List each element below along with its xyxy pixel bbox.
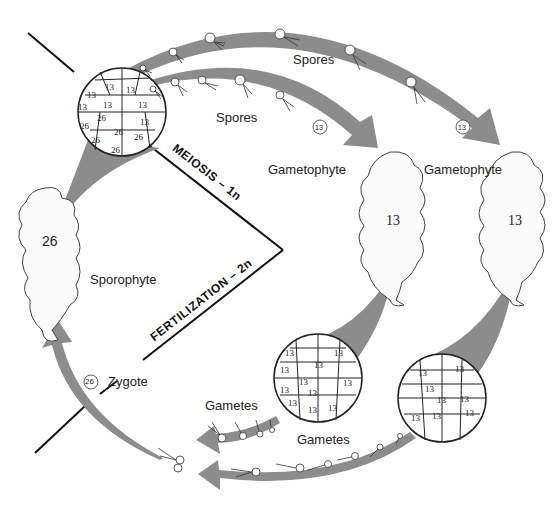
sporophyte-label: Sporophyte — [90, 272, 157, 287]
svg-text:13: 13 — [299, 377, 309, 387]
life-cycle-diagram: 131313 131313 13 262626 262626 1313 1313… — [0, 0, 552, 505]
gametophyte-1-ploidy: 13 — [386, 213, 400, 229]
gametophyte-2-label: Gametophyte — [424, 162, 502, 177]
svg-text:13: 13 — [328, 403, 338, 413]
svg-text:13: 13 — [432, 411, 442, 421]
gametes-label-2: Gametes — [297, 432, 350, 447]
gamete-glyphs — [158, 420, 403, 477]
svg-text:26: 26 — [111, 145, 121, 155]
svg-text:13: 13 — [78, 102, 88, 112]
svg-text:13: 13 — [418, 368, 428, 378]
zygote-arrow — [42, 320, 163, 460]
svg-text:13: 13 — [280, 365, 290, 375]
svg-text:13: 13 — [138, 100, 148, 110]
sporophyte-ploidy: 26 — [42, 233, 58, 249]
spore-ploidy-labels: 1313 — [315, 124, 466, 131]
svg-text:13: 13 — [334, 348, 344, 358]
svg-text:13: 13 — [288, 398, 298, 408]
svg-text:13: 13 — [460, 394, 470, 404]
svg-text:13: 13 — [465, 408, 475, 418]
svg-text:13: 13 — [87, 90, 97, 100]
svg-text:13: 13 — [425, 384, 435, 394]
svg-text:13: 13 — [315, 124, 323, 131]
zygote-label: Zygote — [108, 374, 148, 389]
svg-text:13: 13 — [105, 82, 115, 92]
svg-text:13: 13 — [458, 124, 466, 131]
svg-text:13: 13 — [308, 388, 318, 398]
svg-text:13: 13 — [126, 85, 136, 95]
svg-text:13: 13 — [140, 117, 150, 127]
gametes-label-1: Gametes — [205, 398, 258, 413]
svg-text:13: 13 — [103, 100, 113, 110]
svg-text:13: 13 — [280, 385, 290, 395]
gamete-arrows — [196, 416, 416, 490]
svg-text:26: 26 — [91, 135, 101, 145]
svg-text:13: 13 — [411, 413, 421, 423]
gametophyte-1-label: Gametophyte — [268, 162, 346, 177]
svg-text:13: 13 — [285, 348, 295, 358]
gametophyte-2-ploidy: 13 — [508, 213, 522, 229]
zygote-ploidy: 26 — [85, 377, 94, 386]
spores-label-inner: Spores — [216, 110, 257, 125]
spores-label-outer: Spores — [293, 52, 334, 67]
svg-text:13: 13 — [314, 360, 324, 370]
svg-text:13: 13 — [455, 364, 465, 374]
svg-text:26: 26 — [114, 127, 124, 137]
svg-text:26: 26 — [97, 113, 107, 123]
svg-text:13: 13 — [308, 405, 318, 415]
svg-text:26: 26 — [134, 132, 144, 142]
sporophyte-plant — [19, 187, 80, 341]
spore-arrows — [125, 32, 500, 148]
svg-text:13: 13 — [437, 395, 447, 405]
svg-text:26: 26 — [80, 121, 90, 131]
diagram-graphics: 131313 131313 13 262626 262626 1313 1313… — [0, 0, 552, 505]
svg-text:13: 13 — [343, 378, 353, 388]
